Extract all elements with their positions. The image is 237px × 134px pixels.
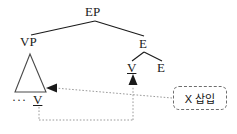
node-ellipsis: ···	[12, 94, 27, 106]
vp-triangle	[15, 54, 46, 92]
movement-arrow-left-head	[46, 84, 57, 93]
node-e-lower: E	[157, 61, 165, 74]
node-e-upper: E	[139, 37, 147, 50]
node-v-head: V	[127, 61, 136, 74]
tree-diagram-canvas: EP VP E V E ··· V X 삽입	[0, 0, 237, 134]
node-ep: EP	[85, 5, 100, 18]
node-v-terminal: V	[33, 93, 42, 106]
tree-graphics	[0, 0, 237, 134]
node-vp: VP	[20, 35, 37, 48]
branch-ep-to-vp	[31, 21, 95, 35]
insertion-annotation-label: X 삽입	[185, 90, 215, 106]
dotted-path-box-to-vp	[55, 88, 172, 98]
branch-ep-to-e	[95, 21, 144, 36]
insertion-annotation-box: X 삽입	[173, 86, 227, 110]
movement-arrow-up-head	[129, 74, 138, 85]
